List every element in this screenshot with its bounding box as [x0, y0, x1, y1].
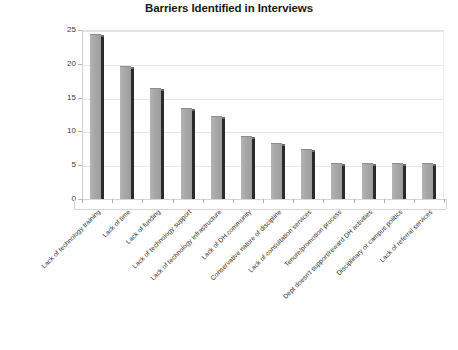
x-axis-tick-mark — [112, 199, 113, 203]
y-axis-tick-mark — [78, 64, 82, 65]
x-axis-tick-mark — [414, 199, 415, 203]
x-axis-tick-mark — [233, 199, 234, 203]
x-axis-tick-mark — [354, 199, 355, 203]
x-axis-tick-mark — [384, 199, 385, 203]
x-axis-tick-mark — [203, 199, 204, 203]
y-axis-tick-mark — [78, 131, 82, 132]
x-axis-tick-mark — [82, 199, 83, 203]
y-axis-tick-mark — [78, 30, 82, 31]
y-axis-tick-mark — [78, 98, 82, 99]
x-axis-tick-mark — [444, 199, 445, 203]
x-axis-tick-mark — [293, 199, 294, 203]
x-axis-tick-mark — [142, 199, 143, 203]
x-axis-tick-mark — [263, 199, 264, 203]
x-axis-tick-mark — [323, 199, 324, 203]
y-axis-tick-mark — [78, 165, 82, 166]
bar-chart: Barriers Identified in Interviews 051015… — [0, 0, 458, 350]
x-axis-labels: Lack of technology trainingLack of timeL… — [0, 0, 458, 350]
x-axis-tick-mark — [173, 199, 174, 203]
